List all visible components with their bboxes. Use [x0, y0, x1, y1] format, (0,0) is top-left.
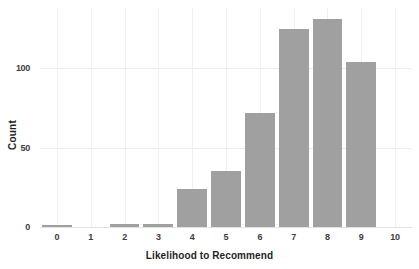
- gridline-vertical: [57, 8, 58, 227]
- x-axis-tick-3: 3: [143, 232, 173, 242]
- bar-8: [313, 19, 343, 227]
- gridline-vertical: [158, 8, 159, 227]
- y-axis-tick-0: 0: [0, 222, 30, 232]
- bar-9: [346, 62, 376, 227]
- bar-7: [279, 29, 309, 227]
- x-axis-tick-1: 1: [76, 232, 106, 242]
- bar-5: [211, 171, 241, 227]
- plot-area: [40, 8, 412, 227]
- x-axis-tick-7: 7: [279, 232, 309, 242]
- y-axis-tick-100: 100: [0, 63, 30, 73]
- clipped-title-artifact: [0, 0, 419, 4]
- histogram-chart: Count 050100012345678910 Likelihood to R…: [0, 0, 419, 269]
- y-axis-tick-50: 50: [0, 143, 30, 153]
- bar-4: [177, 189, 207, 227]
- x-axis-tick-2: 2: [110, 232, 140, 242]
- x-axis-tick-5: 5: [211, 232, 241, 242]
- x-axis-tick-10: 10: [380, 232, 410, 242]
- x-axis-tick-6: 6: [245, 232, 275, 242]
- bar-6: [245, 113, 275, 227]
- x-axis-tick-8: 8: [312, 232, 342, 242]
- x-axis-label: Likelihood to Recommend: [0, 250, 419, 261]
- gridline-vertical: [125, 8, 126, 227]
- x-axis-tick-0: 0: [42, 232, 72, 242]
- axis-baseline: [40, 227, 412, 228]
- gridline-vertical: [395, 8, 396, 227]
- x-axis-tick-9: 9: [346, 232, 376, 242]
- x-axis-tick-4: 4: [177, 232, 207, 242]
- gridline-vertical: [91, 8, 92, 227]
